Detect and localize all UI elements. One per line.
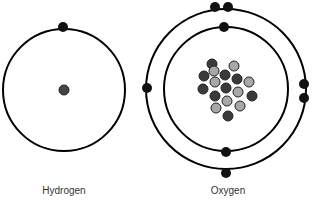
proton	[223, 111, 233, 121]
neutron	[211, 103, 221, 113]
electron	[299, 79, 309, 89]
neutron	[244, 77, 254, 87]
electron	[221, 147, 231, 157]
neutron	[229, 61, 239, 71]
proton	[199, 71, 209, 81]
electron	[299, 93, 309, 103]
oxygen-nucleus	[198, 59, 257, 121]
electron	[210, 2, 220, 12]
atom-diagram	[0, 0, 315, 205]
electron	[58, 22, 68, 32]
hydrogen-nucleus	[59, 85, 69, 95]
electron	[223, 2, 233, 12]
hydrogen-label: Hydrogen	[42, 185, 85, 196]
proton	[221, 83, 231, 93]
neutron	[209, 66, 219, 76]
proton	[232, 74, 242, 84]
oxygen-label: Oxygen	[211, 185, 245, 196]
proton	[220, 70, 230, 80]
hydrogen-atom	[3, 22, 125, 151]
proton	[210, 91, 220, 101]
neutron	[233, 87, 243, 97]
electron	[142, 83, 152, 93]
proton	[247, 91, 257, 101]
electron	[219, 22, 229, 32]
neutron	[210, 77, 220, 87]
electron	[221, 168, 231, 178]
neutron	[235, 101, 245, 111]
neutron	[222, 96, 232, 106]
proton	[198, 84, 208, 94]
oxygen-atom	[142, 2, 309, 178]
